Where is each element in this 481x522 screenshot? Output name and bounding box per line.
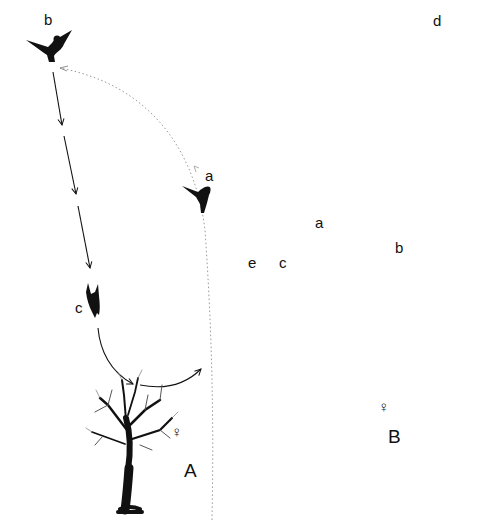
position-label-b: b [44,12,52,27]
position-label-a: a [205,168,213,183]
arrowhead-near-a [194,166,199,172]
dive-path-b-to-c [53,72,90,268]
female-symbol-a: ♀ [171,424,182,439]
position-label-c-b: c [279,255,287,270]
panel-a [26,30,213,520]
swoop-path-c-to-a [98,328,201,387]
dotted-path-a-to-b [60,68,213,520]
panel-label-b: B [388,427,401,446]
tree-a-icon [86,370,178,512]
female-symbol-b: ♀ [378,399,389,414]
position-label-d: d [433,13,441,28]
position-label-b-b: b [395,240,403,255]
panel-label-a: A [184,461,197,480]
bird-b-icon [26,30,72,62]
position-label-e: e [248,255,256,270]
bird-c-icon [86,283,100,318]
position-label-a-b: a [315,215,323,230]
position-label-c: c [75,300,83,315]
flight-diagram [0,0,481,522]
bird-a-icon [182,186,211,213]
